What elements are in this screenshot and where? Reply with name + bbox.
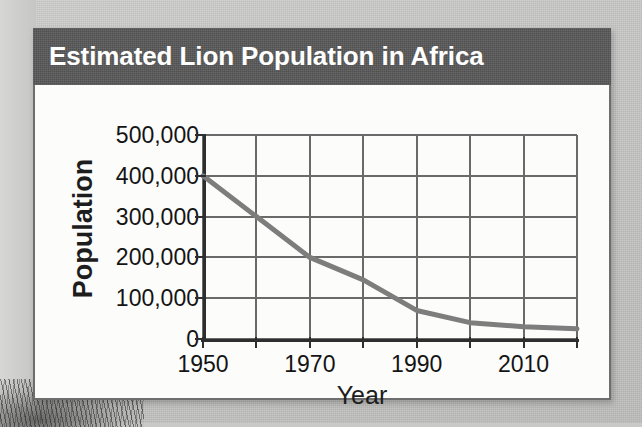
x-axis-tick — [523, 337, 525, 348]
plot-panel: Population 0100,000200,000300,000400,000… — [33, 85, 611, 400]
lion-population-line — [203, 176, 577, 329]
data-line-chart — [203, 135, 577, 339]
y-axis-tick — [195, 216, 206, 218]
y-axis-tick — [195, 338, 206, 340]
y-tick-label: 300,000 — [116, 203, 199, 230]
chart-title: Estimated Lion Population in Africa — [49, 41, 484, 72]
x-tick-label: 1970 — [284, 351, 335, 378]
x-axis-tick — [309, 337, 311, 348]
y-tick-label: 400,000 — [116, 162, 199, 189]
x-axis-title: Year — [35, 381, 613, 410]
x-axis-tick — [469, 337, 471, 348]
x-axis-tick — [255, 337, 257, 348]
y-axis-tick — [195, 256, 206, 258]
y-tick-label: 500,000 — [116, 122, 199, 149]
x-tick-label: 2010 — [498, 351, 549, 378]
x-axis-tick — [416, 337, 418, 348]
backdrop-left-shade — [0, 0, 36, 423]
y-axis-tick — [195, 134, 206, 136]
y-axis-tick — [195, 297, 206, 299]
y-axis-title: Population — [68, 139, 99, 319]
x-tick-label: 1990 — [391, 351, 442, 378]
x-axis-tick — [202, 337, 204, 348]
x-axis-tick — [576, 337, 578, 348]
y-axis-tick — [195, 175, 206, 177]
chart-card: Estimated Lion Population in Africa Popu… — [33, 28, 611, 400]
x-tick-label: 1950 — [177, 351, 228, 378]
y-tick-label: 100,000 — [116, 285, 199, 312]
y-axis-tick-labels: 0100,000200,000300,000400,000500,000 — [113, 135, 199, 347]
x-axis-tick — [362, 337, 364, 348]
x-axis-title-text: Year — [261, 381, 388, 409]
y-tick-label: 200,000 — [116, 244, 199, 271]
chart-title-banner: Estimated Lion Population in Africa — [33, 28, 611, 85]
